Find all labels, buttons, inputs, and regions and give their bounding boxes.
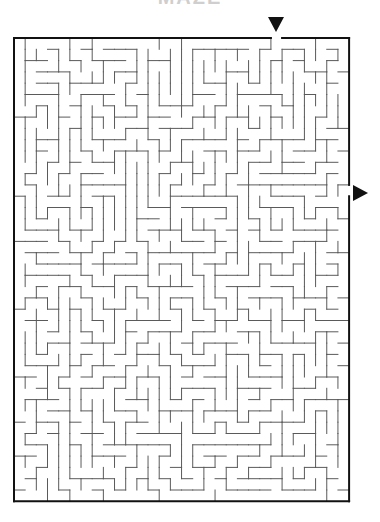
entrance-arrow-icon (268, 17, 284, 32)
exit-arrow-icon (353, 185, 368, 201)
maze-inner-walls (14, 38, 349, 501)
maze-board[interactable] (0, 0, 380, 522)
